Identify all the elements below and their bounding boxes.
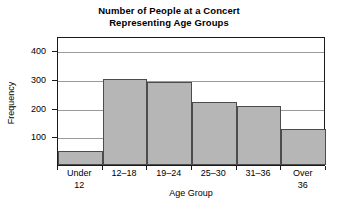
- x-category-label-line-1: 12–18: [111, 168, 136, 178]
- bar: [103, 79, 148, 165]
- bar: [192, 102, 237, 165]
- x-category-label-line-1: Under: [67, 168, 92, 178]
- y-tick-label-300: 300: [12, 75, 46, 85]
- bar-series: [58, 38, 324, 165]
- bar-chart-figure: Number of People at a Concert Representi…: [0, 0, 338, 219]
- chart-title-line-2: Representing Age Groups: [0, 17, 338, 29]
- x-axis-label: Age Group: [57, 188, 325, 199]
- x-category-label-line-1: 25–30: [201, 168, 226, 178]
- x-category-label-line-1: 31–36: [245, 168, 270, 178]
- bar: [281, 129, 326, 165]
- x-category-label-line-1: Over: [293, 168, 313, 178]
- bar: [237, 106, 282, 165]
- bar: [147, 82, 192, 165]
- bar: [58, 151, 103, 165]
- y-tick-label-200: 200: [12, 104, 46, 114]
- chart-title: Number of People at a Concert Representi…: [0, 5, 338, 29]
- y-tick-label-100: 100: [12, 132, 46, 142]
- y-tick-label-400: 400: [12, 46, 46, 56]
- chart-title-line-1: Number of People at a Concert: [0, 5, 338, 17]
- x-category-label-line-1: 19–24: [156, 168, 181, 178]
- plot-area: [57, 37, 325, 166]
